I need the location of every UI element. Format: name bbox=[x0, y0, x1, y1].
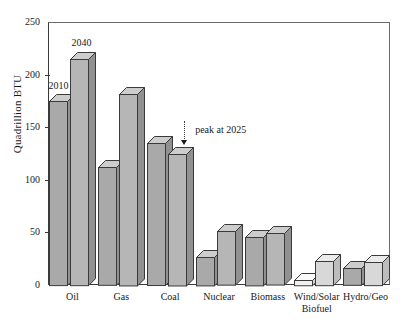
bar-biomass-2040 bbox=[266, 226, 291, 285]
x-axis-label-line1: Hydro/Geo bbox=[343, 291, 388, 302]
bar-oil-2040 bbox=[70, 52, 95, 285]
bars-layer bbox=[48, 22, 390, 285]
annotation-leader-line bbox=[184, 121, 185, 141]
bar-3d-shape bbox=[315, 254, 342, 287]
bar-coal-2040 bbox=[168, 147, 193, 286]
bar-3d-shape bbox=[70, 52, 97, 287]
y-axis-tick-label: 0 bbox=[12, 280, 40, 290]
annotation-peak-at-2025: peak at 2025 bbox=[195, 125, 246, 135]
bar-3d-shape bbox=[168, 147, 195, 288]
bar-3d-shape bbox=[364, 255, 391, 287]
bar-3d-shape bbox=[266, 226, 293, 287]
y-axis-tick-label: 250 bbox=[12, 17, 40, 27]
series-label-2010: 2010 bbox=[48, 81, 68, 91]
bar-hydro-geo-2040 bbox=[364, 255, 389, 285]
bar-nuclear-2040 bbox=[217, 224, 242, 285]
bar-chart: 050100150200250 Quadrillion BTU OilGasCo… bbox=[0, 0, 409, 332]
bar-gas-2040 bbox=[119, 87, 144, 285]
x-axis-label-line2: Biofuel bbox=[267, 303, 367, 315]
y-axis-tick-label: 50 bbox=[12, 227, 40, 237]
series-label-2040: 2040 bbox=[71, 38, 91, 48]
annotation-arrow-icon bbox=[181, 140, 187, 145]
x-axis-tick-label: Hydro/Geo bbox=[316, 291, 409, 303]
bar-wind-solar-biofuel-2040 bbox=[315, 254, 340, 285]
bar-3d-shape bbox=[217, 224, 244, 287]
bar-3d-shape bbox=[119, 87, 146, 287]
y-axis-title: Quadrillion BTU bbox=[11, 49, 23, 179]
